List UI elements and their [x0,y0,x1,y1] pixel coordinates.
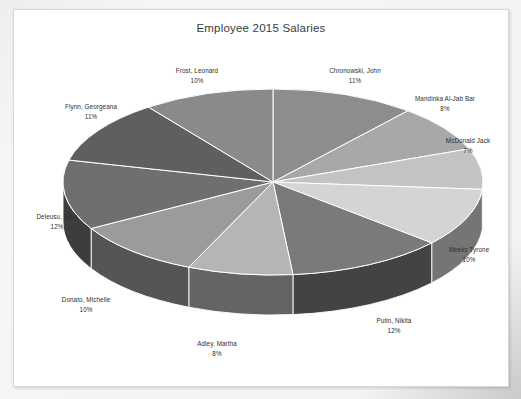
pie-label-donato-pct: 10% [34,305,138,315]
pie-label-mcdonald-pct: 7% [426,146,510,156]
pie-label-mandinka-pct: 8% [389,104,501,114]
pie-label-deleusu: Deleusu, Gino 12% [10,212,104,232]
pie-label-donato: Donato, Michelle 10% [34,295,138,315]
pie-label-meeks: Meeks Tyrone 10% [428,245,510,265]
pie-label-meeks-pct: 10% [428,255,510,265]
pie-label-frost-name: Frost, Leonard [176,67,218,74]
pie-label-deleusu-pct: 12% [10,222,104,232]
pie-label-mandinka-name: Mandinka Al-Jab Bar [415,95,475,102]
pie-label-putin-pct: 12% [352,326,436,336]
pie-label-flynn-pct: 11% [37,112,145,122]
pie-label-flynn-name: Flynn, Georgeana [65,103,117,110]
pie-label-frost-pct: 10% [148,76,246,86]
pie-label-deleusu-name: Deleusu, Gino [36,213,77,220]
pie-label-chronowski: Chronowski, John 11% [300,66,410,86]
pie-label-adley-pct: 8% [169,349,265,359]
pie-label-mcdonald-name: McDonald Jack [446,137,490,144]
pie-label-donato-name: Donato, Michelle [62,296,111,303]
chart-canvas: Employee 2015 Salaries Chronowski, John … [13,9,509,387]
pie-label-mcdonald: McDonald Jack 7% [426,136,510,156]
pie-chart-stage: Chronowski, John 11% Mandinka Al-Jab Bar… [14,10,510,388]
pie-label-chronowski-name: Chronowski, John [329,67,381,74]
pie-label-frost: Frost, Leonard 10% [148,66,246,86]
pie-label-adley: Adley, Martha 8% [169,339,265,359]
pie-label-meeks-name: Meeks Tyrone [449,246,490,253]
pie-label-putin-name: Putin, Nikita [377,317,412,324]
pie-label-flynn: Flynn, Georgeana 11% [37,102,145,122]
pie-label-chronowski-pct: 11% [300,76,410,86]
pie-label-adley-name: Adley, Martha [197,340,237,347]
pie-label-mandinka: Mandinka Al-Jab Bar 8% [389,94,501,114]
pie-label-putin: Putin, Nikita 12% [352,316,436,336]
